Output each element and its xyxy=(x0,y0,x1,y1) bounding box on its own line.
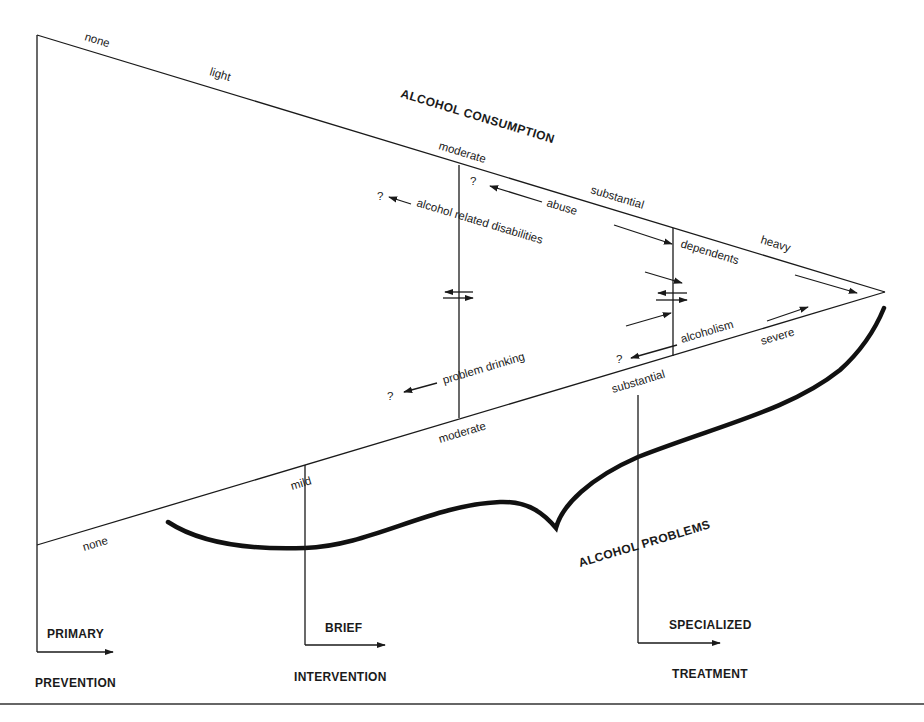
brief-label: BRIEF xyxy=(325,621,363,635)
alcohol-consumption-title: ALCOHOL CONSUMPTION xyxy=(399,86,556,146)
problems-mild: mild xyxy=(289,474,313,492)
consumption-none: none xyxy=(83,30,111,49)
problem-drinking-arrow xyxy=(404,383,437,392)
top-edge-consumption xyxy=(37,35,885,292)
question-mark: ? xyxy=(616,353,622,365)
abuse-arrow xyxy=(490,186,542,202)
population-curve xyxy=(168,308,884,548)
triangle-frame xyxy=(37,35,885,652)
alcohol-related-disabilities-label: alcohol related disabilities xyxy=(415,196,544,245)
problem-drinking-label: problem drinking xyxy=(441,350,526,386)
specialized-label: SPECIALIZED xyxy=(669,618,752,632)
alcoholism-label: alcoholism xyxy=(679,318,734,345)
question-mark: ? xyxy=(377,190,383,202)
severe-to-apex-arrow xyxy=(767,307,808,321)
to-divider-arrow-upper xyxy=(645,272,682,283)
disabilities-arrow xyxy=(389,197,411,204)
alcohol-consumption-problems-diagram: none light moderate substantial heavy AL… xyxy=(0,0,924,722)
consumption-moderate: moderate xyxy=(437,139,487,165)
consumption-substantial: substantial xyxy=(589,183,645,210)
intervention-primary: PRIMARY PREVENTION xyxy=(35,627,116,690)
primary-label: PRIMARY xyxy=(47,627,104,641)
consumption-heavy: heavy xyxy=(759,233,792,253)
heavy-to-apex-arrow xyxy=(795,275,857,293)
intervention-label: INTERVENTION xyxy=(294,670,387,684)
to-dependents-arrow xyxy=(614,225,672,244)
to-divider-arrow-lower xyxy=(626,313,671,326)
problems-none: none xyxy=(81,534,109,553)
consumption-labels: none light moderate substantial heavy AL… xyxy=(83,30,792,253)
prevention-label: PREVENTION xyxy=(35,676,116,690)
alcohol-problems-title: ALCOHOL PROBLEMS xyxy=(577,517,712,570)
treatment-label: TREATMENT xyxy=(672,667,748,681)
inner-flow: ? abuse ? alcohol related disabilities d… xyxy=(377,175,857,402)
problems-severe: severe xyxy=(759,326,796,347)
dependents-label: dependents xyxy=(679,237,740,266)
abuse-label: abuse xyxy=(545,196,578,217)
question-mark: ? xyxy=(387,390,393,402)
consumption-light: light xyxy=(208,65,232,83)
intervention-brief: BRIEF INTERVENTION xyxy=(294,465,387,684)
question-mark: ? xyxy=(470,175,476,187)
